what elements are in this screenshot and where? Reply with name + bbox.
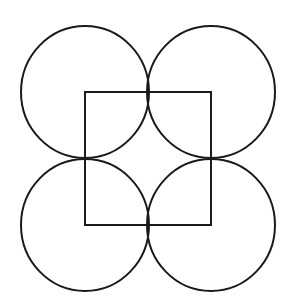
diagram-canvas	[0, 0, 287, 308]
four-circles-square-figure	[0, 0, 287, 308]
central-square	[85, 92, 211, 225]
